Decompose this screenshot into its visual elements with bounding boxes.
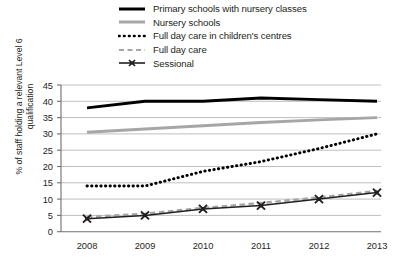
y-tick-label: 30 — [43, 129, 53, 139]
y-tick-label: 5 — [48, 211, 53, 221]
x-tick-label: 2009 — [135, 241, 156, 251]
y-tick-label: 10 — [43, 195, 53, 205]
y-axis-ticks — [57, 85, 61, 232]
series-line-1 — [87, 118, 377, 133]
chart-figure: Primary schools with nursery classes Nur… — [0, 0, 393, 268]
y-tick-label: 20 — [43, 162, 53, 172]
x-tick-label: 2011 — [251, 241, 271, 251]
y-axis-tick-labels: 45 40 35 30 25 20 15 10 5 0 — [43, 81, 53, 238]
x-axis-tick-labels: 2008 2009 2010 2011 2012 2013 — [77, 241, 388, 251]
x-tick-label: 2013 — [367, 241, 388, 251]
y-tick-label: 15 — [43, 178, 53, 188]
x-tick-label: 2008 — [77, 241, 98, 251]
chart-plot-area: 45 40 35 30 25 20 15 10 5 0 2008 2009 20… — [0, 0, 393, 268]
y-tick-label: 45 — [43, 81, 53, 91]
series-line-0 — [87, 98, 377, 108]
data-series-layer — [83, 98, 381, 223]
series-line-2 — [87, 134, 377, 186]
x-tick-label: 2010 — [193, 241, 214, 251]
y-tick-label: 35 — [43, 113, 53, 123]
series-line-3 — [87, 191, 377, 217]
x-tick-label: 2012 — [309, 241, 330, 251]
y-tick-label: 0 — [48, 227, 53, 237]
y-tick-label: 40 — [43, 97, 53, 107]
y-tick-label: 25 — [43, 146, 53, 156]
